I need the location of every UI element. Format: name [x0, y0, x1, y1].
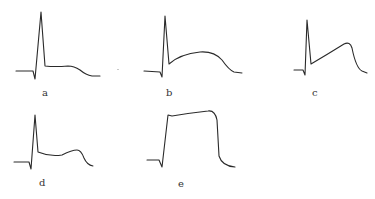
waveform-b: [144, 16, 242, 77]
waveform-c: [294, 20, 367, 75]
waveform-diagram: [0, 0, 375, 199]
panel-label-a: a: [42, 88, 48, 98]
panel-label-d: d: [39, 178, 45, 188]
panel-label-e: e: [178, 179, 184, 189]
panel-label-c: c: [312, 88, 318, 98]
stray-mark: [117, 69, 119, 70]
waveform-e: [147, 111, 235, 167]
waveform-a: [16, 12, 100, 79]
waveform-d: [14, 115, 93, 169]
panel-label-b: b: [166, 88, 172, 98]
